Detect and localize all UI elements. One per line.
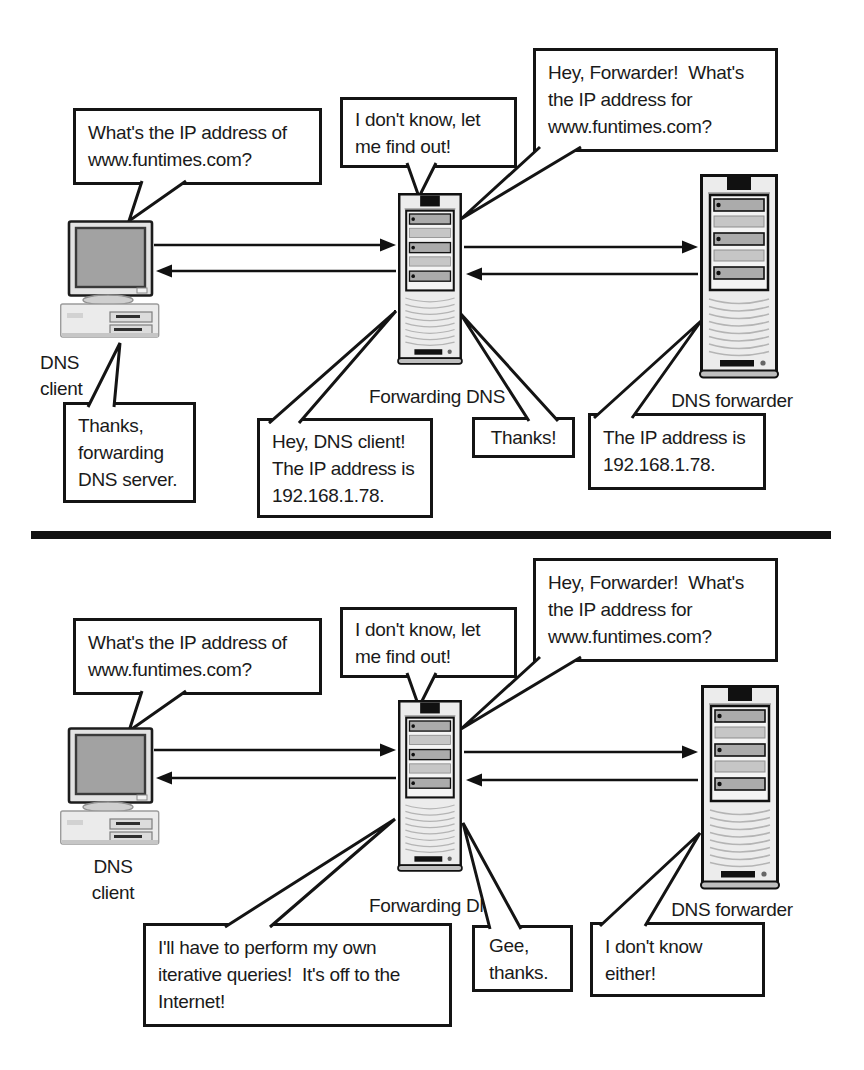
arrows-panel-2 [154, 744, 698, 787]
bubble-client-question: What's the IP address of www.funtimes.co… [73, 108, 322, 185]
dns-forwarding-diagram: What's the IP address of www.funtimes.co… [0, 0, 864, 1070]
desktop-computer-icon [61, 729, 159, 845]
speech-tail [407, 163, 436, 197]
arrow-forwarder-to-middle-icon [466, 268, 698, 281]
tower-server-icon [700, 176, 778, 378]
arrow-middle-to-client-icon [156, 772, 396, 785]
arrow-client-to-middle-icon [154, 239, 396, 252]
tower-server-icon [701, 687, 779, 889]
label-dns-forwarder: DNS forwarder [652, 388, 812, 414]
label-dns-forwarder: DNS forwarder [652, 897, 812, 923]
bubble-hey-forwarder: Hey, Forwarder! What's the IP address fo… [533, 48, 778, 152]
speech-tail [88, 343, 120, 407]
desktop-computer-icon [61, 222, 159, 338]
speech-tails-panel-1 [88, 147, 701, 423]
speech-tails-panel-2 [129, 657, 700, 929]
speech-tail [129, 181, 186, 221]
bubble-thanks-to-forwarder: Thanks! [472, 417, 575, 458]
bubble-gee-thanks: Gee, thanks. [472, 925, 573, 992]
speech-tail [407, 673, 436, 707]
bubble-dont-know: I don't know, let me find out! [340, 97, 517, 168]
bubble-dont-know: I don't know, let me find out! [340, 607, 517, 678]
arrow-forwarder-to-middle-icon [466, 774, 698, 787]
bubble-client-question: What's the IP address of www.funtimes.co… [73, 618, 322, 695]
label-forwarding-dns: Forwarding DNS [357, 384, 517, 410]
label-dns-client: DNS client [40, 350, 83, 402]
speech-tail [129, 691, 186, 731]
bubble-client-thanks: Thanks, forwarding DNS server. [63, 402, 196, 503]
bubble-dont-know-either: I don't know either! [590, 922, 765, 997]
arrow-middle-to-forwarder-icon [464, 241, 698, 254]
tower-server-icon [398, 194, 462, 364]
bubble-forwarder-answer: The IP address is 192.168.1.78. [588, 413, 766, 490]
bubble-hey-forwarder: Hey, Forwarder! What's the IP address fo… [533, 558, 778, 662]
bubble-iterative-queries: I'll have to perform my own iterative qu… [143, 923, 452, 1027]
arrow-middle-to-forwarder-icon [464, 746, 698, 759]
tower-server-icon [398, 701, 462, 871]
arrows-panel-1 [154, 239, 698, 281]
bubble-answer-to-client: Hey, DNS client! The IP address is 192.1… [257, 418, 433, 518]
label-forwarding-dns: Forwarding DNS [357, 893, 517, 919]
arrow-client-to-middle-icon [154, 744, 396, 757]
arrow-middle-to-client-icon [156, 265, 396, 278]
label-dns-client: DNS client [75, 854, 151, 906]
panel-divider [31, 531, 831, 539]
